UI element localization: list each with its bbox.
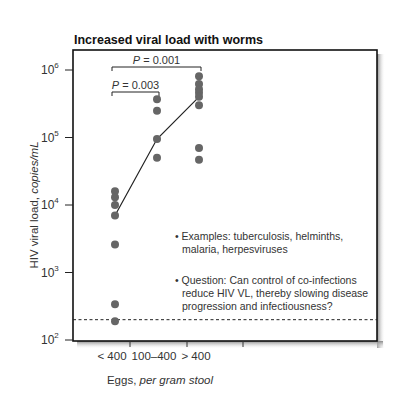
x-tick-label: 100–400	[132, 350, 177, 362]
data-point	[153, 135, 161, 143]
y-axis: 102103104105106	[41, 61, 73, 347]
y-tick-label: 104	[41, 196, 59, 212]
chart: Increased viral load with worms HIV vira…	[0, 0, 399, 400]
y-tick-label: 102	[41, 331, 59, 347]
data-point	[111, 201, 119, 209]
y-tick-base: 10	[41, 333, 55, 347]
note-line: malaria, herpesviruses	[182, 243, 288, 255]
data-point	[153, 154, 161, 162]
frame-shadow-right	[377, 54, 385, 348]
data-point	[111, 193, 119, 201]
x-tick-label: < 400	[97, 350, 126, 362]
y-axis-label: HIV viral load, copies/mL	[28, 141, 40, 268]
data-point	[195, 144, 203, 152]
y-tick-exponent: 3	[54, 264, 59, 273]
data-point	[195, 101, 203, 109]
y-tick-label: 106	[41, 61, 59, 77]
x-axis-label-main: Eggs,	[107, 374, 136, 386]
data-point	[111, 240, 119, 248]
data-point	[195, 93, 203, 101]
data-point	[111, 300, 119, 308]
y-tick-base: 10	[41, 63, 55, 77]
data-point	[111, 317, 119, 325]
y-tick-exponent: 6	[54, 61, 59, 70]
frame-shadow-bottom	[77, 341, 383, 349]
x-tick-label: > 400	[181, 350, 210, 362]
p-value: = 0.001	[140, 54, 180, 66]
y-axis-label-main: HIV viral load,	[28, 197, 40, 269]
p-value-label: P = 0.001	[133, 54, 180, 66]
y-tick-exponent: 4	[54, 196, 59, 205]
y-axis-label-units: copies/mL	[28, 141, 40, 193]
data-point	[153, 107, 161, 115]
data-point	[195, 72, 203, 80]
note-line: • Question: Can control of co-infections	[175, 274, 357, 286]
x-axis-label-units: per gram stool	[139, 374, 214, 386]
note-line: reduce HIV VL, thereby slowing disease	[182, 287, 368, 299]
data-point	[111, 211, 119, 219]
note-line: • Examples: tuberculosis, helminths,	[175, 230, 343, 242]
p-value: = 0.003	[119, 79, 159, 91]
y-tick-base: 10	[41, 266, 55, 280]
data-point	[195, 156, 203, 164]
y-tick-label: 103	[41, 264, 59, 280]
y-tick-exponent: 2	[54, 331, 59, 340]
y-tick-base: 10	[41, 198, 55, 212]
chart-title: Increased viral load with worms	[74, 33, 263, 47]
data-point	[153, 95, 161, 103]
y-tick-base: 10	[41, 131, 55, 145]
y-tick-label: 105	[41, 129, 59, 145]
x-axis-label: Eggs, per gram stool	[107, 374, 214, 386]
note-line: progression and infectiousness?	[182, 300, 333, 312]
y-tick-exponent: 5	[54, 129, 59, 138]
p-value-label: P = 0.003	[112, 79, 159, 91]
